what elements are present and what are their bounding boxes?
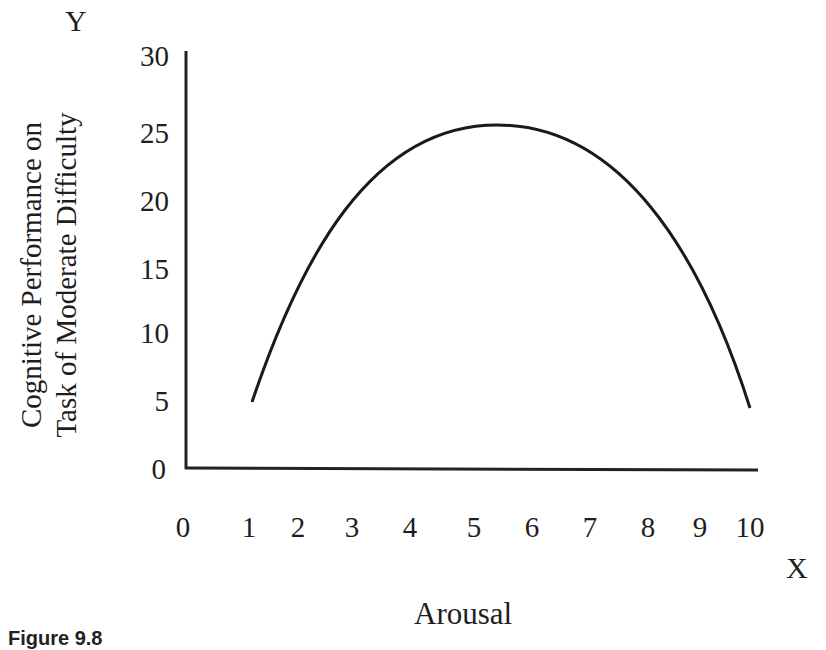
figure-caption: Figure 9.8	[8, 627, 102, 650]
x-axis-line	[185, 468, 758, 470]
performance-curve	[252, 125, 750, 408]
